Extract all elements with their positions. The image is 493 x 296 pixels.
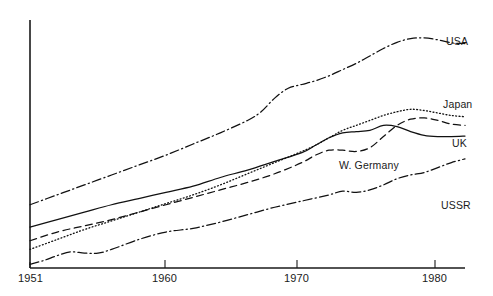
series-label-w-germany: W. Germany (339, 159, 399, 171)
series-label-japan: Japan (443, 98, 472, 110)
series-label-uk: UK (452, 137, 467, 149)
x-tick-label-1951: 1951 (18, 272, 43, 284)
line-chart-figure: 1951 1960 1970 1980 USA Japan UK W. Germ… (0, 0, 493, 296)
chart-plot-area (0, 0, 493, 296)
series-line-ussr (30, 159, 465, 264)
series-line-w-germany (30, 118, 465, 241)
series-line-japan (30, 109, 465, 249)
series-label-ussr: USSR (441, 199, 471, 211)
x-tick-label-1970: 1970 (284, 272, 309, 284)
series-label-usa: USA (446, 35, 468, 47)
series-line-uk (30, 125, 465, 227)
x-tick-label-1980: 1980 (422, 272, 447, 284)
x-tick-label-1960: 1960 (152, 272, 177, 284)
series-line-usa (30, 38, 465, 205)
